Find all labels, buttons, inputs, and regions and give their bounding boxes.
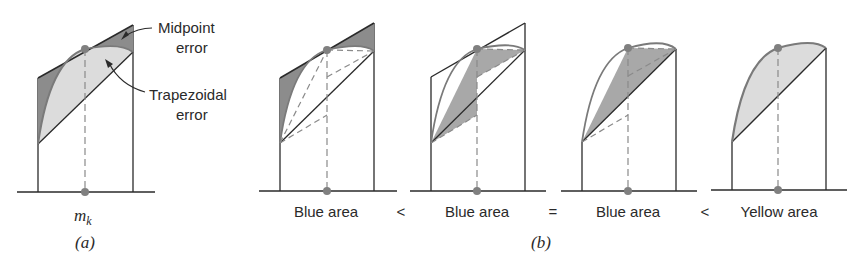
panel-b2: Blue area xyxy=(410,23,546,220)
midpoint-error-label-line2: error xyxy=(176,39,208,56)
midpoint-dot-axis xyxy=(323,187,331,195)
area-label-3: Blue area xyxy=(596,203,661,220)
relation-2: = xyxy=(549,203,558,220)
panel-b4: Yellow area xyxy=(711,43,847,220)
area-label-1: Blue area xyxy=(294,203,359,220)
midpoint-dot-top xyxy=(473,45,481,53)
shaded-triangle-right xyxy=(477,49,525,77)
midpoint-dot-axis xyxy=(81,188,89,196)
midpoint-dot-axis xyxy=(473,187,481,195)
midpoint-trapezoidal-error-figure: Midpoint error Trapezoidal error mk (a) … xyxy=(0,0,854,272)
relation-1: < xyxy=(397,203,406,220)
midpoint-dot-axis xyxy=(624,187,632,195)
panel-a: Midpoint error Trapezoidal error mk (a) xyxy=(17,19,227,252)
midpoint-dot-axis xyxy=(774,186,782,194)
trapezoidal-error-label-line1: Trapezoidal xyxy=(149,86,227,103)
area-label-2: Blue area xyxy=(445,203,510,220)
panel-b3: Blue area xyxy=(561,43,697,220)
midpoint-dot-top xyxy=(774,44,782,52)
midpoint-label-m: m xyxy=(74,206,86,225)
relation-3: < xyxy=(701,203,710,220)
midpoint-dot-top xyxy=(323,46,331,54)
panel-a-caption: (a) xyxy=(75,233,95,252)
midpoint-label: mk xyxy=(74,206,92,228)
midpoint-error-label-line1: Midpoint xyxy=(158,19,216,36)
midpoint-dot-top xyxy=(624,44,632,52)
trapezoidal-error-label-line2: error xyxy=(176,106,208,123)
midpoint-label-subscript: k xyxy=(86,214,92,228)
panel-b-caption: (b) xyxy=(531,233,551,252)
midpoint-dot-top xyxy=(81,45,89,53)
panel-b1: Blue area xyxy=(259,23,397,220)
area-label-4: Yellow area xyxy=(741,203,819,220)
